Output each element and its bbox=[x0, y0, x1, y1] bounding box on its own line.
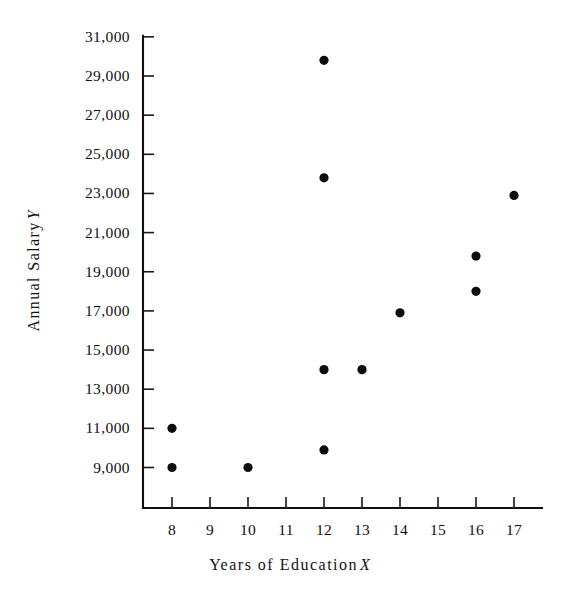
x-axis-tick-label: 17 bbox=[506, 522, 522, 538]
x-axis-tick-label: 14 bbox=[392, 522, 408, 538]
x-axis-title: Years of EducationX bbox=[0, 556, 579, 574]
x-axis-tick-label: 13 bbox=[354, 522, 370, 538]
x-axis-tick-label: 10 bbox=[240, 522, 256, 538]
y-axis-variable-symbol: Y bbox=[25, 210, 42, 221]
x-axis-variable-symbol: X bbox=[358, 556, 370, 573]
x-axis-tick-labels: 891011121314151617 bbox=[0, 0, 579, 602]
x-axis-tick-label: 15 bbox=[430, 522, 446, 538]
x-axis-tick-label: 8 bbox=[168, 522, 176, 538]
y-axis-title-text: Annual Salary bbox=[25, 221, 42, 331]
y-axis-title: Annual SalaryY bbox=[25, 141, 43, 401]
x-axis-tick-label: 11 bbox=[278, 522, 294, 538]
x-axis-tick-label: 16 bbox=[468, 522, 484, 538]
x-axis-tick-label: 12 bbox=[316, 522, 332, 538]
x-axis-tick-label: 9 bbox=[206, 522, 214, 538]
scatter-plot-figure: 9,00011,00013,00015,00017,00019,00021,00… bbox=[0, 0, 579, 602]
x-axis-title-text: Years of Education bbox=[209, 556, 358, 573]
